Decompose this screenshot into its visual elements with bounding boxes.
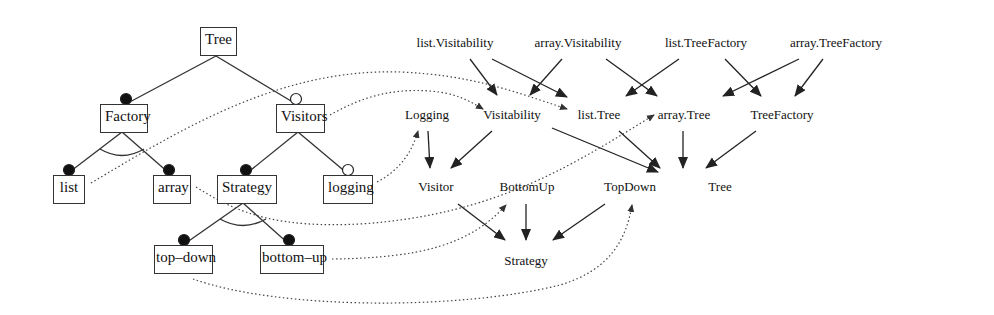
module-topdown[interactable]: TopDown [604, 179, 656, 195]
optional-marker-icon [291, 94, 302, 105]
feature-node-tree[interactable]: Tree [200, 27, 237, 56]
feature-node-array[interactable]: array [153, 175, 191, 204]
feature-node-bottom-up[interactable]: bottom–up [260, 245, 324, 274]
mandatory-marker-icon [179, 235, 190, 246]
feature-node-factory[interactable]: Factory [100, 104, 148, 133]
feature-node-top-down[interactable]: top–down [154, 245, 213, 274]
module-strategy[interactable]: Strategy [504, 253, 547, 269]
module-bottomup[interactable]: BottomUp [500, 179, 555, 195]
module-treefactory[interactable]: TreeFactory [750, 107, 813, 123]
module-list-visitability[interactable]: list.Visitability [417, 35, 494, 51]
module-array-tree[interactable]: array.Tree [658, 107, 710, 123]
optional-marker-icon [343, 165, 354, 176]
mandatory-marker-icon [241, 165, 252, 176]
feature-node-list[interactable]: list [53, 175, 85, 204]
mandatory-marker-icon [164, 165, 175, 176]
mandatory-marker-icon [284, 235, 295, 246]
module-visitor[interactable]: Visitor [418, 179, 453, 195]
module-tree[interactable]: Tree [708, 179, 731, 195]
module-list-treefactory[interactable]: list.TreeFactory [665, 35, 747, 51]
feature-tree-edges [67, 56, 348, 245]
mandatory-marker-icon [64, 165, 75, 176]
module-visitability[interactable]: Visitability [483, 107, 541, 123]
feature-node-logging[interactable]: logging [323, 175, 373, 204]
module-logging[interactable]: Logging [405, 107, 449, 123]
module-graph-edges [428, 59, 823, 240]
mandatory-marker-icon [121, 94, 132, 105]
module-list-tree[interactable]: list.Tree [578, 107, 621, 123]
module-array-treefactory[interactable]: array.TreeFactory [790, 35, 882, 51]
module-array-visitability[interactable]: array.Visitability [535, 35, 622, 51]
feature-node-strategy[interactable]: Strategy [217, 175, 277, 204]
feature-node-visitors[interactable]: Visitors [276, 104, 325, 133]
